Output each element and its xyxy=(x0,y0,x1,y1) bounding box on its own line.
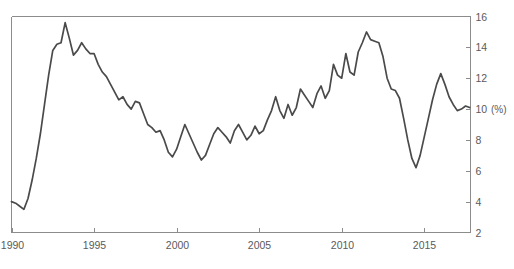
y-tick-label: 4 xyxy=(476,196,482,208)
y-tick-label: 8 xyxy=(476,134,482,146)
y-tick-label: 14 xyxy=(476,41,488,53)
y-tick-label: 6 xyxy=(476,165,482,177)
y-axis-ticks xyxy=(466,48,471,203)
x-tick-label: 2000 xyxy=(166,239,190,251)
chart-container: 246810121416 199019952000200520102015 (%… xyxy=(0,0,514,269)
x-axis-tick-labels: 199019952000200520102015 xyxy=(1,239,437,251)
x-axis-ticks xyxy=(13,228,425,233)
y-tick-label: 12 xyxy=(476,72,488,84)
x-tick-label: 1990 xyxy=(1,239,25,251)
x-tick-label: 2005 xyxy=(248,239,272,251)
x-tick-label: 1995 xyxy=(83,239,107,251)
y-tick-label: 16 xyxy=(476,11,488,23)
y-tick-label: 2 xyxy=(476,227,482,239)
y-tick-label: 10 xyxy=(476,103,488,115)
y-axis-unit-label: (%) xyxy=(491,104,507,115)
data-series-line xyxy=(12,23,470,210)
y-axis-tick-labels: 246810121416 xyxy=(476,11,488,239)
x-tick-label: 2015 xyxy=(413,239,437,251)
line-chart: 246810121416 199019952000200520102015 (%… xyxy=(0,0,514,269)
x-tick-label: 2010 xyxy=(331,239,355,251)
